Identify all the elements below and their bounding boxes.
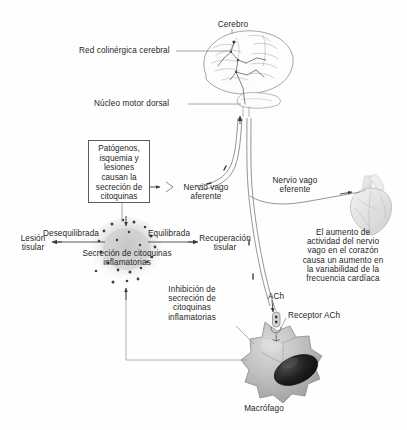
label-nucleo-motor-dorsal: Núcleo motor dorsal [94,99,169,108]
block-inhibicion-line-1: Inhibición de [148,285,236,294]
box-patogenos-line-5: secreción de [91,183,147,193]
box-patogenos: Patógenos, isquemia y lesiones causan la… [88,140,150,203]
box-patogenos-line-2: isquemia y [91,154,147,164]
label-nervio-vago-eferente-line-2: eferente [264,185,326,194]
label-desequilibrada: Desequilibrada [43,229,99,238]
box-patogenos-line-3: lesiones [91,163,147,173]
block-corazon-line-6: frecuencia cardíaca [283,274,403,283]
label-nervio-vago-aferente-line-1: Nervio vago [175,183,237,192]
label-recuperacion-tisular: Recuperación tisular [194,234,256,252]
label-recuperacion-tisular-line-2: tisular [194,243,256,252]
box-patogenos-line-6: citoquinas [91,192,147,202]
block-corazon-line-3: vago en el corazón [283,246,403,255]
label-macrofago: Macrófago [228,404,300,413]
label-secrecion-citoquinas-line-2: inflamatorias [56,258,198,267]
block-corazon-line-2: actividad del nervio [283,237,403,246]
label-nervio-vago-aferente: Nervio vago aferente [175,183,237,201]
block-inhibicion-line-4: inflamatorias [148,313,236,322]
block-corazon-line-4: causa un aumento en [283,256,403,265]
label-recuperacion-tisular-line-1: Recuperación [194,234,256,243]
label-lesion-tisular-line-2: tisular [12,243,54,252]
label-secrecion-citoquinas-line-1: Secreción de citoquinas [56,249,198,258]
diagram-canvas: Cerebro Red colinérgica cerebral Núcleo … [0,0,407,430]
label-receptor-ach: Receptor ACh [288,311,340,320]
box-patogenos-line-4: causan la [91,173,147,183]
label-nervio-vago-eferente-line-1: Nervio vago [264,176,326,185]
heart-illustration [350,174,391,235]
block-inhibicion-line-3: citoquinas [148,303,236,312]
ach-vesicle-icon [273,312,281,327]
macrophage-cell [241,322,323,403]
box-patogenos-line-1: Patógenos, [91,144,147,154]
label-secrecion-citoquinas: Secreción de citoquinas inflamatorias [56,249,198,267]
label-red-colinergica: Red colinérgica cerebral [79,46,170,55]
label-nervio-vago-eferente: Nervio vago eferente [264,176,326,194]
artwork-layer [0,0,407,430]
label-ach: ACh [268,292,284,301]
label-equilibrada: Equilibrada [148,229,190,238]
block-corazon-line-1: El aumento de [283,228,403,237]
block-corazon: El aumento de actividad del nervio vago … [283,228,403,283]
block-corazon-line-5: la variabilidad de la [283,265,403,274]
block-inhibicion-line-2: secreción de [148,294,236,303]
label-nervio-vago-aferente-line-2: aferente [175,192,237,201]
label-cerebro: Cerebro [200,20,266,29]
block-inhibicion: Inhibición de secreción de citoquinas in… [148,285,236,322]
